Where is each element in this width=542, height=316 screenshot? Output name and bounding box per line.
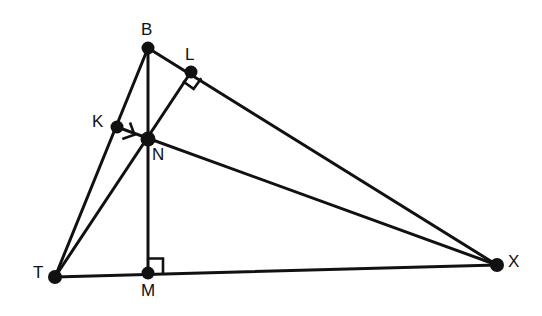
point-label-N: N — [152, 146, 164, 163]
segment-T-B — [55, 48, 148, 277]
vertex-dot-B[interactable] — [142, 42, 155, 55]
segment-T-L — [55, 72, 191, 277]
vertex-dot-T[interactable] — [48, 270, 62, 284]
right-angle-group — [122, 78, 201, 273]
point-label-X: X — [508, 253, 519, 270]
point-label-L: L — [185, 46, 194, 63]
vertex-dot-X[interactable] — [490, 258, 504, 272]
segment-T-X — [55, 265, 497, 277]
segment-group — [55, 48, 497, 277]
vertex-dot-M[interactable] — [142, 267, 155, 280]
vertex-dot-K[interactable] — [111, 121, 124, 134]
point-label-B: B — [141, 21, 152, 38]
vertex-dot-L[interactable] — [185, 66, 198, 79]
point-label-M: M — [141, 282, 155, 299]
point-label-T: T — [33, 264, 43, 281]
geometry-canvas — [0, 0, 542, 316]
point-label-K: K — [92, 113, 103, 130]
geometry-diagram: B L K N T M X — [0, 0, 542, 316]
vertex-group — [48, 42, 504, 285]
